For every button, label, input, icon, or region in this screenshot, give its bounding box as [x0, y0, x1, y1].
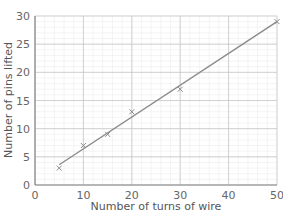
y-tick-label: 0 [23, 179, 30, 192]
x-axis-label: Number of turns of wire [91, 200, 222, 213]
x-tick-label: 0 [32, 189, 39, 202]
x-tick-label: 50 [270, 189, 283, 202]
y-tick-label: 25 [16, 38, 30, 51]
y-tick-label: 20 [16, 66, 30, 79]
fit-line [59, 22, 277, 165]
y-tick-labels: 051015202530 [16, 10, 30, 192]
y-axis-label: Number of pins lifted [2, 42, 15, 158]
y-tick-label: 5 [23, 151, 30, 164]
y-tick-label: 30 [16, 10, 30, 23]
best-fit-line [59, 22, 277, 165]
chart: 01020304050 051015202530 Number of turns… [0, 0, 283, 214]
y-tick-label: 10 [16, 123, 30, 136]
x-tick-label: 40 [222, 189, 236, 202]
x-tick-label: 10 [76, 189, 90, 202]
y-tick-label: 15 [16, 95, 30, 108]
